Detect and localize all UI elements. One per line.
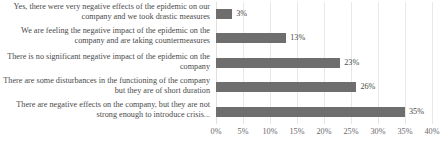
x-tick-label: 25% <box>343 126 358 138</box>
x-axis-ticks: 0% 5% 10% 15% 20% 25% 30% 35% 40% <box>216 126 432 142</box>
category-label: There is no significant negative impact … <box>0 52 210 73</box>
category-label: We are feeling the negative impact of th… <box>0 26 210 47</box>
bar[interactable] <box>216 9 232 19</box>
x-tick-label: 5% <box>238 126 249 138</box>
bar-row: 13% <box>216 26 432 50</box>
bar[interactable] <box>216 107 405 117</box>
category-label: There are some disturbances in the funct… <box>0 76 210 97</box>
bar-row: 3% <box>216 2 432 26</box>
bar-row: 26% <box>216 75 432 99</box>
bar-row: 35% <box>216 100 432 124</box>
gridline <box>432 2 433 124</box>
bar-row: 23% <box>216 51 432 75</box>
bar-value-label: 26% <box>360 78 375 95</box>
x-tick-label: 0% <box>211 126 222 138</box>
x-tick-label: 30% <box>370 126 385 138</box>
bar[interactable] <box>216 82 356 92</box>
bar-value-label: 35% <box>409 103 424 120</box>
category-label: Yes, there were very negative effects of… <box>0 2 210 23</box>
x-tick-label: 40% <box>424 126 439 138</box>
category-axis-labels: Yes, there were very negative effects of… <box>0 0 212 124</box>
x-tick-label: 20% <box>316 126 331 138</box>
x-tick-label: 10% <box>262 126 277 138</box>
bar[interactable] <box>216 33 286 43</box>
x-tick-label: 15% <box>289 126 304 138</box>
bar-value-label: 13% <box>290 29 305 46</box>
plot-area: 3% 13% 23% 26% 35% <box>216 2 432 124</box>
category-label: There are negative effects on the compan… <box>0 100 210 121</box>
x-tick-label: 35% <box>397 126 412 138</box>
horizontal-bar-chart: Yes, there were very negative effects of… <box>0 0 441 145</box>
bar[interactable] <box>216 58 340 68</box>
bar-value-label: 3% <box>236 5 247 22</box>
bar-value-label: 23% <box>344 54 359 71</box>
